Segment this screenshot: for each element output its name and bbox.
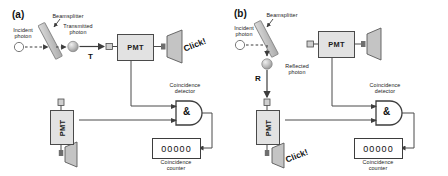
speaker-horn-a: [167, 30, 182, 63]
panel-a-coincidence-counter-label: Coincidence counter: [150, 159, 202, 171]
pmt-top-b: PMT: [318, 31, 355, 58]
pmt-side-a: PMT: [50, 110, 74, 145]
incident-photon-circle-b: [235, 40, 244, 49]
panel-a-path-symbol: T: [88, 52, 93, 61]
pmt-side-b-label: PMT: [264, 119, 273, 136]
panel-a-coincidence-detector-label: Coincidence detector: [160, 82, 210, 94]
beamsplitter-pointer-b: [267, 19, 273, 27]
panel-b-coincidence-counter-label: Coincidence counter: [352, 159, 404, 171]
panel-b-outgoing-photon-label: Reflected photon: [277, 63, 317, 75]
coincidence-counter-a: 00000: [152, 138, 201, 159]
pmt-side-a-label: PMT: [58, 119, 67, 136]
panel-a-gate-symbol: &: [183, 106, 190, 117]
speaker-horn-b-side: [272, 143, 284, 168]
panel-b-incident-photon-label: Incident photon: [225, 25, 263, 37]
figure-root: (a) Incident photon Beamsplitter Transmi…: [0, 0, 448, 176]
panel-b-gate-symbol: &: [383, 106, 390, 117]
panel-a-incident-photon-label: Incident photon: [4, 27, 42, 39]
incident-photon-circle: [14, 42, 23, 51]
pmt-top-output-stub: [161, 44, 166, 50]
panel-b-beamsplitter-label: Beamsplitter: [258, 12, 306, 18]
panel-a-tag: (a): [12, 9, 24, 20]
transmitted-photon-sphere: [68, 41, 78, 51]
panel-b: (b) Incident photon Beamsplitter Reflect…: [224, 0, 448, 176]
speaker-horn-a-side: [65, 142, 77, 167]
pmt-side-output-stub-b: [265, 150, 270, 156]
pmt-top-cathode-stub: [106, 44, 117, 50]
pmt-side-output-stub: [59, 150, 64, 156]
panel-a: (a) Incident photon Beamsplitter Transmi…: [0, 0, 224, 176]
panel-b-path-symbol: R: [255, 74, 261, 83]
panel-a-outgoing-photon-label: Transmitted photon: [56, 23, 100, 35]
pmt-top-cathode-stub-b: [307, 41, 318, 47]
pmt-top-output-stub-b: [361, 41, 366, 47]
speaker-horn-b: [367, 28, 381, 60]
pmt-side-cathode-stub-b: [264, 99, 270, 110]
pmt-top-a: PMT: [117, 34, 154, 61]
panel-a-beamsplitter-label: Beamsplitter: [44, 13, 92, 19]
reflected-photon-sphere-b: [262, 59, 272, 69]
pmt-side-b: PMT: [256, 110, 280, 145]
panel-b-coincidence-detector-label: Coincidence detector: [360, 82, 410, 94]
pmt-side-cathode-stub: [58, 99, 64, 110]
panel-b-tag: (b): [234, 8, 247, 19]
coincidence-counter-b: 00000: [354, 138, 403, 159]
